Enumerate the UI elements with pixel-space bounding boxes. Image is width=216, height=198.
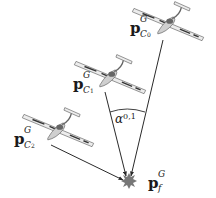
label-p-c2: p G C2: [14, 131, 25, 147]
label-angle-alpha: α0,1: [115, 113, 123, 125]
target-icon: [121, 173, 137, 189]
label-p-c1: p G C1: [73, 76, 84, 92]
label-p-f: p G f: [148, 175, 159, 191]
line-of-sight-c0: [131, 40, 163, 176]
label-p-c0: p G C0: [130, 20, 141, 36]
diagram-canvas: [0, 0, 216, 198]
line-of-sight-c1: [105, 92, 126, 176]
line-of-sight-c2: [51, 145, 123, 180]
